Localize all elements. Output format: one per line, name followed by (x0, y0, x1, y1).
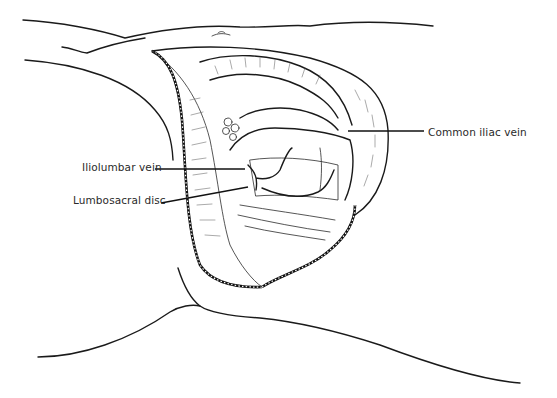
ascending-lumbar-vein (320, 148, 322, 190)
psoas-muscle (238, 205, 335, 240)
peritoneum-upper-fold (200, 56, 352, 125)
common-iliac-vein-drawing (262, 170, 334, 196)
fat-globules (223, 118, 240, 141)
iliolumbar-vein-drawing (248, 148, 292, 190)
label-iliolumbar-vein: Iliolumbar vein (82, 161, 162, 173)
incision-right-edge-dots (262, 205, 355, 287)
body-contour-leg (38, 305, 200, 357)
body-contour-flank (62, 38, 145, 53)
body-contour-back (25, 60, 173, 160)
peritoneum-mid-fold (210, 74, 338, 118)
peritoneum-lower-fold (240, 108, 338, 130)
label-lumbosacral-disc: Lumbosacral disc (73, 194, 166, 206)
incision-right-edge (262, 205, 355, 287)
label-common-iliac-vein: Common iliac vein (428, 126, 527, 138)
body-contour-top (23, 20, 433, 38)
leader-lumbosacral (161, 187, 248, 203)
navel-mark (212, 32, 230, 37)
anatomical-illustration: Common iliac vein Iliolumbar vein Lumbos… (0, 0, 557, 398)
tissue-hatching (190, 58, 375, 236)
